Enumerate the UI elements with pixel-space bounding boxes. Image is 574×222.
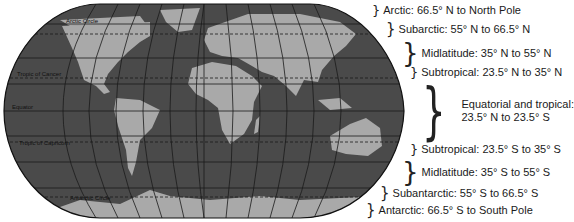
arctic-circle-label: Arctic Circle [66,18,98,24]
zone-subantarctic: } Subantarctic: 55° S to 66.5° S [380,186,538,201]
zone-equatorial-tropical: } Equatorial and tropical: 23.5° N to 23… [414,80,574,142]
brace-icon: } [422,80,446,142]
zone-antarctic: } Antarctic: 66.5° S to South Pole [366,203,533,218]
brace-icon: } [366,203,376,218]
zone-midlatitude-south: } Midlatitude: 35° S to 55° S [402,159,550,185]
brace-icon: } [410,66,418,79]
equatorial-label-line1: Equatorial and tropical: [461,98,574,111]
tropic-of-cancer-label: Tropic of Cancer [17,71,61,77]
equatorial-label-line2: 23.5° N to 23.5° S [461,111,574,124]
antarctic-circle-label: Antarctic Circle [70,195,110,201]
brace-icon: } [410,143,418,156]
world-map [0,0,420,222]
tropic-of-capricorn-label: Tropic of Capricorn [19,140,70,146]
brace-icon: } [372,4,380,17]
brace-icon: } [386,22,396,37]
equator-label: Equator [12,104,33,110]
zone-arctic: } Arctic: 66.5° N to North Pole [372,4,521,17]
brace-icon: } [402,40,419,66]
brace-icon: } [380,186,390,201]
zone-subarctic: } Subarctic: 55° N to 66.5° N [386,22,530,37]
zone-subtropical-south: } Subtropical: 23.5° S to 35° S [410,143,561,156]
brace-icon: } [402,159,419,185]
zone-midlatitude-north: } Midlatitude: 35° N to 55° N [402,40,551,66]
